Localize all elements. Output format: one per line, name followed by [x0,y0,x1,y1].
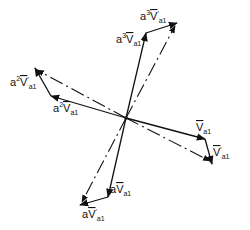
label-a2-va1-prime: a2V′a1 [10,75,37,90]
svg-text:a2V′a1: a2V′a1 [10,75,37,90]
svg-text:aVa1: aVa1 [110,183,131,197]
label-va1-prime: V′a1 [213,146,230,160]
diff-a2-va1 [35,68,51,96]
label-va1: Va1 [196,121,211,135]
origin-point [124,116,128,120]
svg-text:Va1: Va1 [196,121,211,135]
svg-text:a3Va1: a3Va1 [116,32,141,47]
phasor-diagram: a3V′a1 a3Va1 a2V′a1 a2Va1 Va1 V′a1 aVa1 … [0,0,250,230]
svg-text:a3V′a1: a3V′a1 [140,9,167,24]
label-a-va1-prime: aV′a1 [82,208,105,222]
label-a3-va1: a3Va1 [116,32,141,47]
svg-text:aV′a1: aV′a1 [82,208,105,222]
label-a3-va1-prime: a3V′a1 [140,9,167,24]
svg-text:V′a1: V′a1 [213,146,230,160]
phasor-va1 [126,118,205,139]
label-a-va1: aVa1 [110,183,131,197]
diff-va1 [205,139,212,164]
